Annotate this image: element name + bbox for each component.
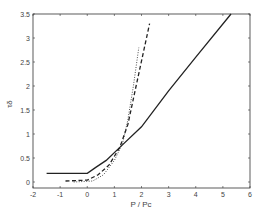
- data-series: [47, 14, 231, 182]
- x-tick-label: 4: [194, 191, 198, 198]
- x-tick-label: -2: [30, 191, 36, 198]
- y-tick-label: 0: [26, 179, 30, 186]
- series-dotted-line: [74, 48, 139, 182]
- series-dashed-line: [66, 24, 150, 181]
- x-tick-label: 5: [221, 191, 225, 198]
- y-axis-ticks: 00.511.522.533.5: [20, 11, 250, 186]
- plot-frame: [33, 14, 250, 188]
- x-tick-label: 2: [140, 191, 144, 198]
- x-tick-label: -1: [57, 191, 63, 198]
- y-tick-label: 3: [26, 35, 30, 42]
- x-tick-label: 6: [248, 191, 252, 198]
- y-tick-label: 1.5: [20, 107, 30, 114]
- y-tick-label: 0.5: [20, 155, 30, 162]
- y-tick-label: 2.5: [20, 59, 30, 66]
- x-axis-ticks: -2-10123456: [30, 14, 252, 198]
- y-tick-label: 2: [26, 83, 30, 90]
- x-tick-label: 3: [167, 191, 171, 198]
- y-tick-label: 3.5: [20, 11, 30, 18]
- series-solid-line: [47, 14, 231, 173]
- chart: -2-10123456 00.511.522.533.5 P / Pc τδ: [0, 0, 263, 212]
- x-tick-label: 1: [112, 191, 116, 198]
- y-axis-label: τδ: [5, 100, 14, 108]
- y-tick-label: 1: [26, 131, 30, 138]
- x-axis-label: P / Pc: [130, 200, 151, 209]
- x-tick-label: 0: [85, 191, 89, 198]
